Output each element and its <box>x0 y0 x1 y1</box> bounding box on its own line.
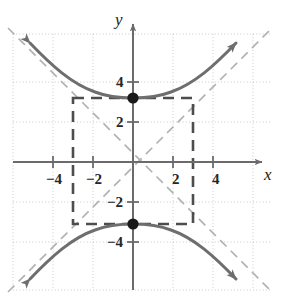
y-tick-label-4: 4 <box>116 75 124 90</box>
x-tick-label-2: 2 <box>172 172 180 187</box>
x-axis-label: x <box>264 166 272 183</box>
vertex-point-upper <box>127 92 138 103</box>
x-tick-label--4: −4 <box>46 172 62 187</box>
x-tick-label-4: 4 <box>212 172 220 187</box>
asymptote-lines <box>8 28 272 292</box>
x-tick-label--2: −2 <box>86 172 102 187</box>
y-axis-label: y <box>115 11 123 28</box>
graph-canvas <box>0 0 285 301</box>
vertex-point-lower <box>127 218 138 229</box>
y-tick-label--4: −4 <box>107 235 123 250</box>
hyperbola-figure: −4 −2 2 4 4 2 −2 −4 y x <box>0 0 285 301</box>
y-tick-label-2: 2 <box>116 115 124 130</box>
y-tick-label--2: −2 <box>107 195 123 210</box>
